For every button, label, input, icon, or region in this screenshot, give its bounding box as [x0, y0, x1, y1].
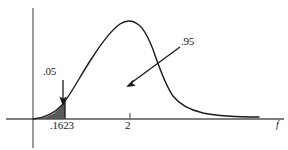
body-area-arrow [126, 47, 180, 87]
tail-area-label: .05 [43, 66, 56, 77]
critical-value-label: .1623 [50, 120, 74, 131]
rejection-region-shading [33, 101, 65, 119]
mode-tick-label: 2 [125, 120, 131, 131]
x-axis-label: f [276, 120, 279, 130]
f-distribution-figure: .05 .95 .1623 2 f [0, 0, 288, 150]
body-area-label: .95 [181, 36, 194, 47]
density-curve [33, 21, 259, 119]
